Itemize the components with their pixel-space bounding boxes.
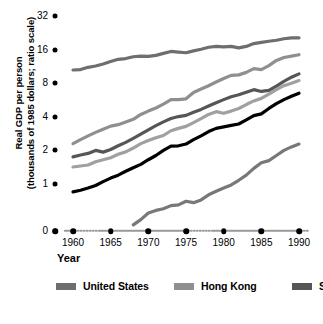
x-tick-dot-1965 xyxy=(108,228,114,234)
x-tick-dot-1985 xyxy=(259,228,265,234)
x-tick-label-1975: 1975 xyxy=(166,238,206,248)
plot-area xyxy=(0,0,323,324)
x-tick-dot-1980 xyxy=(221,228,227,234)
series-line-united-states xyxy=(73,38,299,70)
x-tick-label-1960: 1960 xyxy=(53,238,93,248)
x-axis-title: Year xyxy=(57,252,80,264)
x-axis-origin-dot xyxy=(52,228,58,234)
x-tick-label-1985: 1985 xyxy=(241,238,281,248)
legend-item-united-states[interactable]: United States xyxy=(56,279,174,293)
legend-item-hong-kong[interactable]: Hong Kong xyxy=(174,279,292,293)
x-tick-label-1970: 1970 xyxy=(128,238,168,248)
x-tick-dot-1975 xyxy=(183,228,189,234)
x-tick-label-1965: 1965 xyxy=(91,238,131,248)
series-line-hong-kong xyxy=(73,55,299,144)
series-line-korea xyxy=(73,81,299,167)
legend-label: Hong Kong xyxy=(201,280,257,292)
legend-swatch-icon xyxy=(292,283,312,290)
x-tick-dot-1960 xyxy=(70,228,76,234)
legend-swatch-icon xyxy=(174,283,194,290)
legend-item-singapore[interactable]: Singapore xyxy=(292,279,323,293)
legend-label: Singapore xyxy=(319,280,323,292)
legend-label: United States xyxy=(83,280,149,292)
x-tick-dot-1970 xyxy=(146,228,152,234)
x-tick-label-1980: 1980 xyxy=(204,238,244,248)
x-tick-label-1990: 1990 xyxy=(279,238,319,248)
series-line-taiwan xyxy=(73,93,299,192)
chart-legend: United StatesHong KongSingaporeKoreaTaiw… xyxy=(56,279,306,293)
legend-swatch-icon xyxy=(56,283,76,290)
x-tick-dot-1990 xyxy=(296,228,302,234)
chart-figure: Real GDP per person (thousands of 1985 d… xyxy=(0,0,323,324)
series-line-china xyxy=(133,144,299,225)
